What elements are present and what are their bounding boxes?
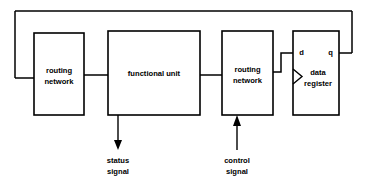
block-data-register[interactable]: d q data register	[293, 31, 339, 115]
control-signal-label-line2: signal	[226, 167, 248, 176]
status-signal-label-line2: signal	[107, 167, 129, 176]
status-signal-arrowhead-icon	[114, 140, 122, 150]
control-signal-label-line1: control	[224, 156, 250, 165]
diagram-canvas: routing network functional unit routing …	[0, 0, 375, 188]
routing-network-right-label-line2: network	[233, 76, 263, 85]
routing-network-right-label-line1: routing	[234, 65, 261, 74]
block-routing-network-right[interactable]: routing network	[222, 31, 273, 115]
functional-unit-label: functional unit	[128, 69, 181, 78]
datapath-diagram: routing network functional unit routing …	[0, 0, 375, 188]
status-signal-group: status signal	[107, 115, 129, 176]
control-signal-group: control signal	[224, 115, 250, 176]
data-register-port-d-label: d	[299, 48, 304, 57]
control-signal-arrowhead-icon	[233, 115, 241, 126]
data-register-label-line1: data	[310, 68, 326, 77]
data-register-label-line2: register	[304, 79, 332, 88]
block-functional-unit[interactable]: functional unit	[108, 31, 200, 115]
status-signal-label-line1: status	[107, 156, 129, 165]
wire-routing-right-to-data-register-d	[273, 53, 293, 72]
routing-network-left-label-line1: routing	[46, 66, 73, 75]
block-routing-network-left[interactable]: routing network	[34, 33, 84, 115]
routing-network-left-label-line2: network	[44, 77, 74, 86]
data-register-port-q-label: q	[328, 48, 333, 57]
